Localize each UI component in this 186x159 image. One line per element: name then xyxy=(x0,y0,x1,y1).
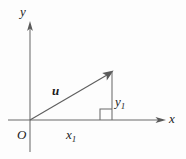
vector-u-label: u xyxy=(52,84,59,97)
x-component-label: x1 xyxy=(66,128,76,144)
figure-canvas xyxy=(0,0,186,159)
vector-component-figure: y x O u y1 x1 xyxy=(0,0,186,159)
y-component-label: y1 xyxy=(115,95,125,111)
y-axis-label: y xyxy=(20,5,26,18)
x-component-label-subscript: 1 xyxy=(72,134,77,144)
vector-u-line xyxy=(30,73,110,120)
x-axis-label: x xyxy=(169,112,175,125)
y-component-label-subscript: 1 xyxy=(121,101,126,111)
origin-label: O xyxy=(17,128,26,141)
right-angle-marker-icon xyxy=(100,109,112,120)
